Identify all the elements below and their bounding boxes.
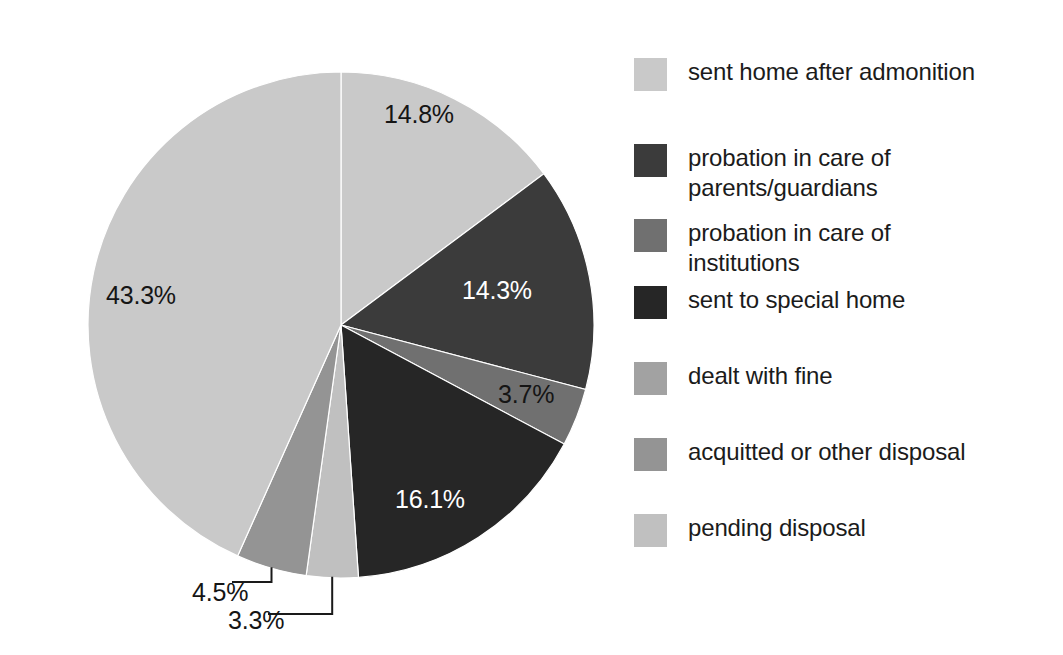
- legend-item-label: pending disposal: [688, 513, 866, 543]
- pie-slice-value-label: 4.5%: [192, 578, 248, 607]
- legend-item[interactable]: pending disposal: [634, 514, 866, 547]
- legend-item-label: acquitted or other disposal: [688, 437, 965, 467]
- pie-slice-value-label: 16.1%: [395, 485, 465, 514]
- pie-slice-value-label: 3.3%: [228, 606, 284, 635]
- legend-item-label: probation in care of institutions: [688, 218, 890, 278]
- legend-item[interactable]: acquitted or other disposal: [634, 438, 965, 471]
- legend-color-swatch-icon: [634, 438, 667, 471]
- legend-item-label: sent to special home: [688, 285, 905, 315]
- legend-color-swatch-icon: [634, 286, 667, 319]
- pie-chart-area: 14.8%14.3%3.7%16.1%3.3%4.5%43.3%: [0, 0, 640, 655]
- pie-slice-value-label: 3.7%: [498, 380, 554, 409]
- legend-item[interactable]: dealt with fine: [634, 362, 833, 395]
- legend-item-label: probation in care of parents/guardians: [688, 143, 890, 203]
- legend-item-label: sent home after admonition: [688, 57, 975, 87]
- pie-slice-value-label: 14.3%: [462, 276, 532, 305]
- legend-color-swatch-icon: [634, 144, 667, 177]
- legend-item[interactable]: probation in care of parents/guardians: [634, 144, 890, 203]
- pie-chart-svg: [0, 0, 640, 655]
- pie-slice-value-label: 43.3%: [106, 281, 176, 310]
- legend-item[interactable]: sent to special home: [634, 286, 905, 319]
- legend-item[interactable]: sent home after admonition: [634, 58, 975, 91]
- legend-color-swatch-icon: [634, 362, 667, 395]
- legend-item-label: dealt with fine: [688, 361, 833, 391]
- legend-color-swatch-icon: [634, 514, 667, 547]
- legend-color-swatch-icon: [634, 58, 667, 91]
- pie-slice-value-label: 14.8%: [384, 100, 454, 129]
- legend-item[interactable]: probation in care of institutions: [634, 219, 890, 278]
- legend-color-swatch-icon: [634, 219, 667, 252]
